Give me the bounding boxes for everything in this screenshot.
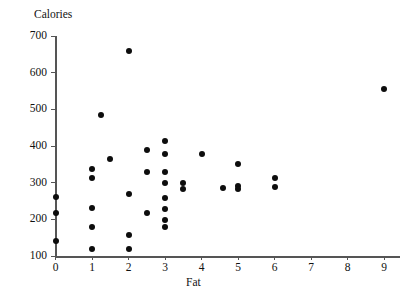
data-point	[162, 151, 168, 157]
data-point	[235, 186, 241, 192]
data-point	[162, 195, 168, 201]
data-point	[162, 180, 168, 186]
data-point	[162, 169, 168, 175]
data-point	[272, 184, 278, 190]
data-point	[53, 194, 59, 200]
data-point	[162, 224, 168, 230]
data-point	[272, 175, 278, 181]
data-point	[162, 217, 168, 223]
data-point	[98, 112, 104, 118]
data-point	[162, 206, 168, 212]
data-point	[89, 224, 95, 230]
data-point	[126, 191, 132, 197]
data-point	[162, 138, 168, 144]
data-point	[220, 185, 226, 191]
data-point	[180, 186, 186, 192]
data-point	[235, 161, 241, 167]
data-point	[126, 232, 132, 238]
data-point	[126, 246, 132, 252]
data-point	[381, 86, 387, 92]
scatter-plot-figure: Calories 100200300400500600700 012345678…	[0, 0, 412, 294]
data-point	[126, 48, 132, 54]
x-axis-title: Fat	[186, 276, 201, 288]
data-point	[89, 175, 95, 181]
data-point	[89, 246, 95, 252]
data-point	[89, 166, 95, 172]
data-point	[53, 210, 59, 216]
data-point	[107, 156, 113, 162]
data-points-layer	[0, 0, 412, 294]
data-point	[144, 169, 150, 175]
data-point	[144, 210, 150, 216]
data-point	[199, 151, 205, 157]
data-point	[89, 205, 95, 211]
data-point	[53, 238, 59, 244]
data-point	[144, 147, 150, 153]
